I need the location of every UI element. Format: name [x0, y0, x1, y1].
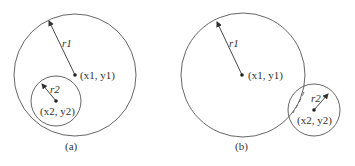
r1-label-b: r1: [229, 37, 239, 49]
center-dot-2-b: [312, 108, 316, 112]
r2-label-b: r2: [311, 92, 321, 104]
center-1-label-a: (x1, y1): [80, 69, 115, 82]
r1-label-a: r1: [62, 37, 72, 49]
circles-diagram: r1 (x1, y1) r2 (x2, y2) (a) r1 (x1, y1) …: [0, 0, 355, 166]
figure-b: r1 (x1, y1) r2 (x2, y2) (b): [181, 13, 340, 153]
center-1-label-b: (x1, y1): [248, 69, 283, 82]
r2-label-a: r2: [50, 83, 60, 95]
center-dot-1-b: [240, 73, 244, 77]
center-dot-2-a: [54, 99, 58, 103]
figure-a: r1 (x1, y1) r2 (x2, y2) (a): [14, 14, 136, 153]
center-2-label-a: (x2, y2): [40, 105, 75, 118]
caption-b: (b): [235, 140, 248, 153]
center-dot-1-a: [73, 73, 77, 77]
center-2-label-b: (x2, y2): [297, 114, 332, 127]
caption-a: (a): [65, 140, 78, 153]
